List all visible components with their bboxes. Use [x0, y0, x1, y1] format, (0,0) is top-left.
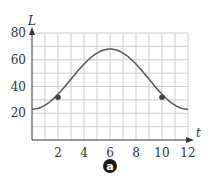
- x-tick-label: 8: [132, 146, 140, 160]
- data-point: [159, 94, 165, 100]
- x-axis-arrow-icon: [186, 137, 194, 143]
- y-axis-label: L: [27, 14, 36, 28]
- x-tick-label: 4: [80, 146, 88, 160]
- chart: 2468101220406080 t L a: [0, 0, 210, 190]
- x-axis-label: t: [196, 126, 201, 140]
- x-tick-label: 10: [154, 146, 169, 160]
- y-axis-arrow-icon: [29, 27, 35, 35]
- y-tick-label: 60: [11, 53, 26, 67]
- axes: [29, 27, 194, 143]
- y-tick-label: 40: [11, 80, 26, 94]
- y-tick-label: 80: [11, 26, 26, 40]
- y-tick-label: 20: [11, 106, 26, 120]
- x-tick-label: 2: [54, 146, 62, 160]
- badge-label: a: [106, 160, 113, 173]
- data-point: [55, 94, 61, 100]
- x-tick-label: 12: [180, 146, 195, 160]
- panel-badge: a: [103, 159, 117, 173]
- x-tick-label: 6: [106, 146, 114, 160]
